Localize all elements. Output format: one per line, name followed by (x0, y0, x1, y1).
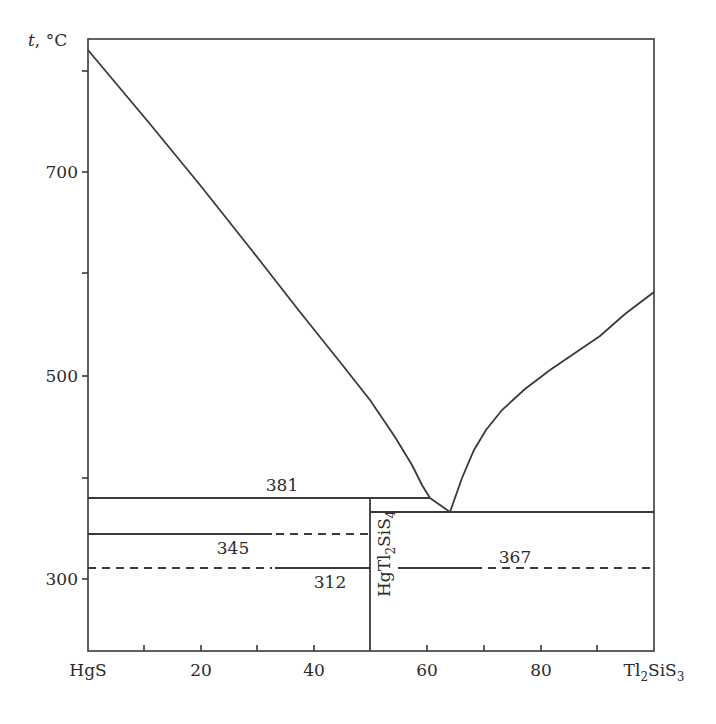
x-label-hgs: HgS (69, 660, 106, 680)
label-312: 312 (314, 572, 346, 592)
compound-label: HgTl2SiS4 (374, 510, 398, 597)
x-tick-80: 80 (530, 660, 552, 680)
y-tick-500: 500 (46, 366, 78, 386)
y-tick-700: 700 (46, 162, 78, 182)
label-381: 381 (266, 475, 298, 495)
x-tick-20: 20 (190, 660, 212, 680)
x-tick-60: 60 (416, 660, 438, 680)
y-axis-ticks (82, 71, 88, 579)
y-axis-label: t, °C (28, 30, 67, 50)
x-label-tl2sis3: Tl2SiS3 (624, 660, 685, 684)
liquidus-right-curve (450, 292, 654, 512)
liquidus-left-curve (88, 50, 430, 498)
label-367: 367 (499, 547, 531, 567)
label-345: 345 (217, 538, 249, 558)
plot-frame (88, 39, 654, 651)
y-tick-300: 300 (46, 569, 78, 589)
phase-diagram: t, °C 700 500 300 HgS 20 40 60 80 Tl2SiS… (0, 0, 716, 724)
peritectic-eutectic-segment (430, 498, 450, 512)
x-tick-40: 40 (303, 660, 325, 680)
